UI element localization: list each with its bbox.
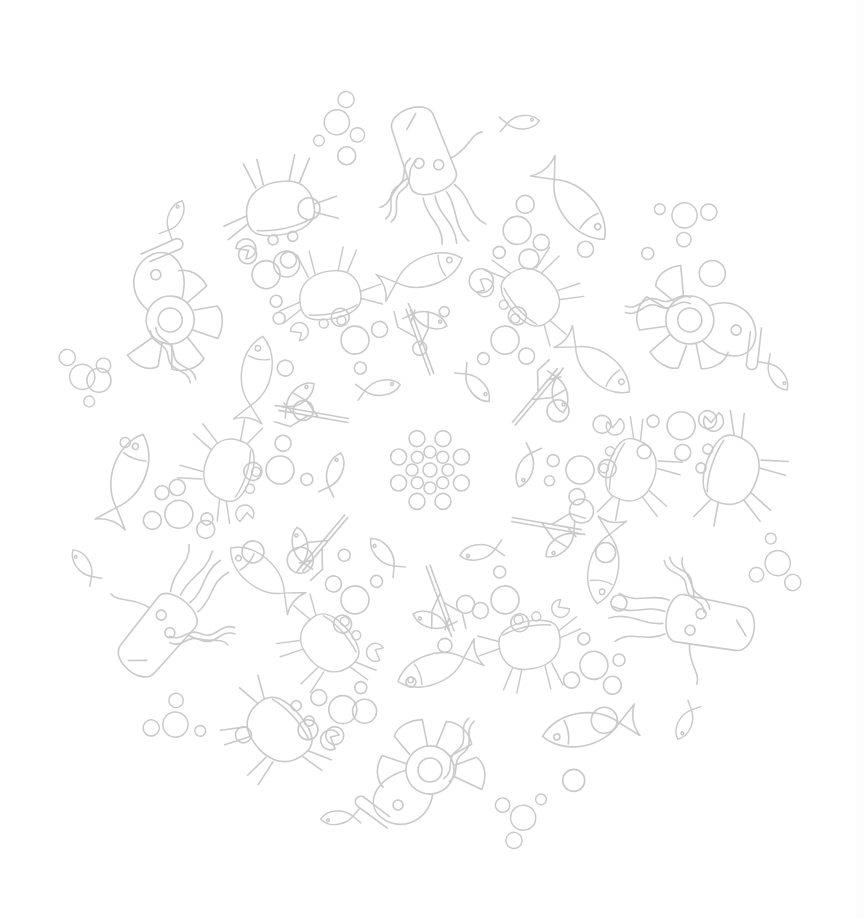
shrimp-motif — [119, 233, 235, 380]
bubbles-motif — [653, 183, 726, 253]
bubbles-motif — [313, 89, 368, 150]
squid-motif — [600, 547, 764, 692]
fish-motif — [540, 703, 640, 752]
sfish-motif — [758, 354, 793, 395]
sfish-motif — [499, 114, 540, 132]
crab-motif — [201, 658, 349, 809]
fish-motif — [583, 516, 627, 606]
worm-motif — [168, 614, 237, 655]
fish-motif — [376, 244, 467, 301]
worm-motif — [623, 284, 692, 325]
fish-motif — [233, 334, 277, 424]
sfish-motif — [548, 368, 571, 414]
coral-motif — [286, 505, 358, 582]
sfish-motif — [458, 540, 504, 563]
crab-motif — [270, 240, 388, 343]
mandala-group — [44, 88, 816, 851]
bubbles-motif — [135, 688, 208, 758]
sfish-motif — [159, 198, 189, 240]
creature-rings — [44, 88, 816, 851]
sfish-motif — [671, 700, 701, 742]
bubbles-motif — [554, 631, 637, 711]
bubbles-motif — [477, 301, 543, 373]
coral-motif — [502, 358, 574, 435]
sea-creatures-mandala — [0, 0, 864, 918]
sfish-motif — [455, 363, 496, 407]
sfish-motif — [319, 450, 349, 497]
worm-motif — [655, 556, 718, 614]
center-bubbles — [391, 431, 470, 510]
squid-motif — [351, 88, 515, 266]
bubbles-motif — [493, 195, 549, 258]
bubbles-motif — [492, 790, 547, 851]
crab-motif — [214, 147, 345, 262]
shrimp-motif — [336, 704, 493, 838]
fish-motif — [530, 155, 617, 250]
bubbles-motif — [317, 567, 383, 639]
sfish-motif — [320, 809, 361, 827]
shrimp-motif — [617, 254, 780, 412]
fish-motif — [95, 429, 159, 530]
sfish-motif — [365, 533, 406, 577]
sfish-motif — [67, 546, 102, 587]
bubbles-motif — [133, 473, 216, 553]
page-edge — [856, 0, 864, 918]
bubbles-motif — [741, 531, 816, 605]
sfish-motif — [511, 443, 541, 490]
crab-motif — [472, 597, 590, 700]
sfish-motif — [356, 377, 402, 400]
crab-motif — [671, 401, 801, 543]
